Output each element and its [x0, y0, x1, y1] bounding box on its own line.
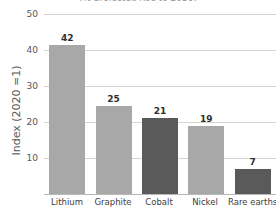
bar-slot: 42 [49, 14, 85, 194]
y-tick-label: 50 [10, 9, 38, 19]
bar[interactable] [235, 169, 271, 194]
y-tick-label: 30 [10, 81, 38, 91]
x-tick-label: Lithium [44, 197, 90, 207]
bar-slot: 21 [142, 14, 178, 194]
bar-value-label: 21 [142, 106, 178, 116]
bar[interactable] [49, 45, 85, 194]
bar-slot: 25 [96, 14, 132, 194]
plot-area: 5040302010 422521197 [44, 14, 276, 194]
y-tick-label: 40 [10, 45, 38, 55]
bar[interactable] [96, 106, 132, 194]
x-tick-label: Cobalt [136, 197, 182, 207]
bar-value-label: 42 [49, 33, 85, 43]
bar-slot: 7 [235, 14, 271, 194]
x-tick-label: Rare earths [228, 197, 276, 207]
bar-value-label: 19 [188, 114, 224, 124]
bar-chart: (% projected rise to 2050) Index (2020 =… [0, 0, 276, 222]
y-tick-label: 20 [10, 117, 38, 127]
x-tick-label: Graphite [90, 197, 136, 207]
bars-container: 422521197 [44, 14, 276, 194]
x-axis-labels: LithiumGraphiteCobaltNickelRare earths [44, 197, 276, 207]
bar[interactable] [142, 118, 178, 194]
bar-value-label: 7 [235, 157, 271, 167]
bar-slot: 19 [188, 14, 224, 194]
bar-value-label: 25 [96, 94, 132, 104]
x-axis-line [44, 194, 276, 195]
bar[interactable] [188, 126, 224, 194]
y-tick-label: 10 [10, 153, 38, 163]
chart-title: (% projected rise to 2050) [0, 0, 276, 1]
x-tick-label: Nickel [182, 197, 228, 207]
